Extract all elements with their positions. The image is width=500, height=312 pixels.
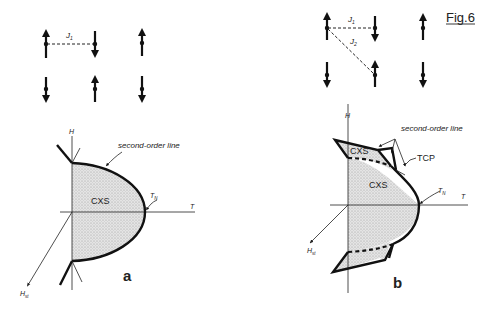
spin-up-icon	[419, 13, 427, 40]
spin-up-icon	[138, 28, 146, 56]
spin-down-icon	[323, 62, 331, 88]
tn-label: TN	[150, 192, 158, 201]
axis-hst-label: Hst	[307, 247, 316, 256]
phase-diagram-a: H T Hst CXS TN second-order line a	[20, 128, 195, 299]
spin-down-icon	[371, 16, 379, 42]
axis-h-label: H	[69, 128, 75, 135]
axis-t-label: T	[461, 193, 466, 200]
spin-up-icon	[91, 75, 99, 102]
cxs-main-label: CXS	[369, 180, 388, 190]
spin-down-icon	[42, 77, 50, 103]
lattice-a: J1	[42, 28, 146, 103]
axis-t-label: T	[190, 203, 195, 210]
second-order-line-label: second-order line	[401, 124, 463, 133]
axis-h-label: H	[345, 112, 351, 119]
panel-a-label: a	[123, 267, 132, 284]
second-order-line-label: second-order line	[118, 141, 180, 150]
coupling-j1-label: J1	[347, 15, 355, 25]
lattice-b: J1 J2	[323, 12, 427, 88]
spin-down-icon	[138, 76, 146, 103]
tcp-label: TCP	[417, 153, 435, 163]
axis-hst-label: Hst	[20, 290, 29, 299]
phase-diagram-b: H T Hst CXS CXS TN second-order line TCP…	[307, 104, 468, 293]
coupling-j1-label: J1	[65, 31, 73, 41]
panel-b-label: b	[393, 274, 402, 291]
spin-down-icon	[419, 62, 427, 88]
spin-up-icon	[371, 60, 379, 87]
figure-canvas: J1	[0, 0, 500, 312]
spin-up-icon	[323, 12, 331, 40]
cxs-wing-label: CXS	[350, 146, 369, 156]
cxs-label: CXS	[91, 196, 110, 206]
figure-title: Fig.6	[446, 10, 475, 25]
coupling-j2-label: J2	[349, 37, 357, 47]
coupling-j2-line	[328, 29, 374, 74]
